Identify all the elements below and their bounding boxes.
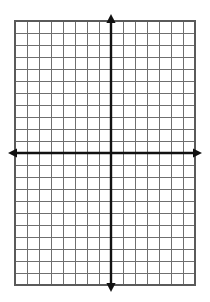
coordinate-grid-graphic <box>0 0 210 302</box>
worksheet-canvas <box>0 0 210 302</box>
